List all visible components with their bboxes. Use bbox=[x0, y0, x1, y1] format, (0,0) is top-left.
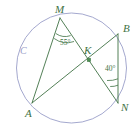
vertex-label-b: B bbox=[123, 22, 130, 34]
angle-arc-n-inner bbox=[110, 85, 118, 86]
geometry-figure-canvas: C M B K N A 55° 40° bbox=[0, 0, 140, 132]
angle-label-m-55: 55° bbox=[60, 38, 71, 47]
angle-arc-m-inner bbox=[56, 34, 71, 37]
angle-arc-n-outer bbox=[107, 79, 118, 81]
vertex-label-a: A bbox=[24, 107, 32, 119]
circle-label-c: C bbox=[20, 45, 27, 56]
vertex-label-k: K bbox=[83, 44, 92, 56]
vertex-label-n: N bbox=[120, 101, 129, 113]
point-marker-k bbox=[87, 58, 90, 61]
angle-label-n-40: 40° bbox=[105, 64, 116, 73]
segment-ma bbox=[32, 18, 60, 103]
geometry-figure-svg: C M B K N A 55° 40° bbox=[0, 0, 140, 132]
vertex-label-m: M bbox=[54, 3, 65, 15]
